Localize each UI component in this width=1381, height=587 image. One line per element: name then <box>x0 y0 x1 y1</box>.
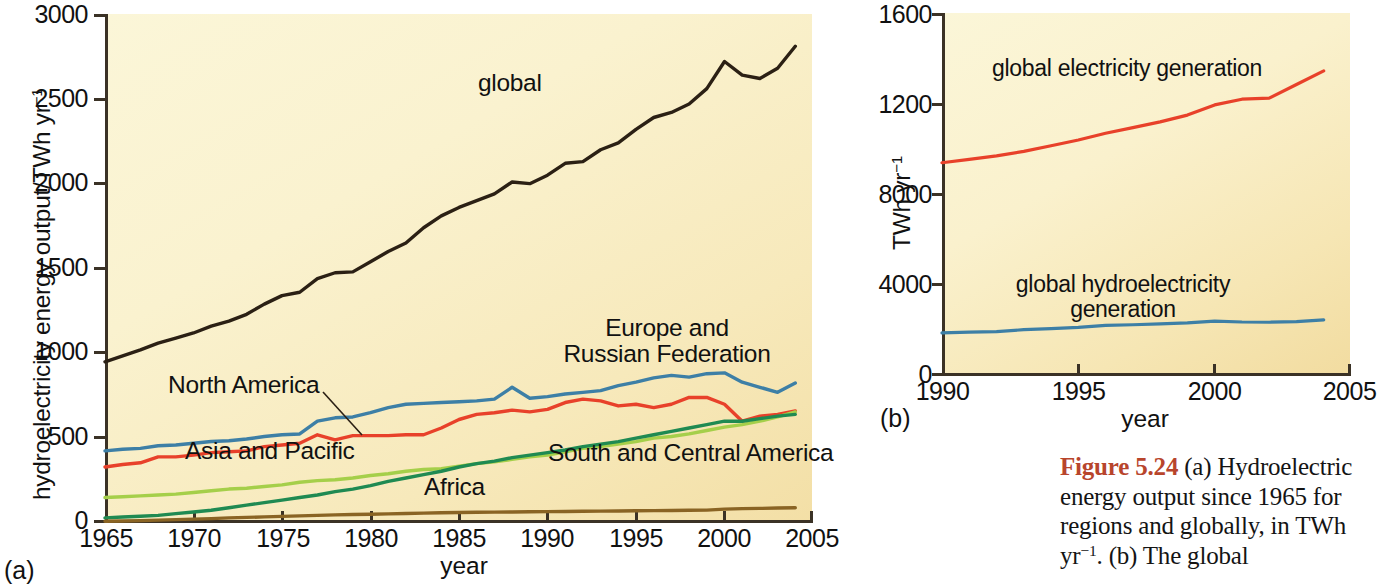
figure-caption-number-prefix: Figure <box>1060 453 1129 480</box>
panel-a-x-axis-label: year <box>404 552 524 580</box>
panel-a-label-europe-russia-line1: Europe and <box>605 314 729 341</box>
panel-b-ytick-label-8000: 8000 <box>828 180 932 209</box>
figure-caption-tail: . (b) The global <box>1097 542 1249 569</box>
panel-a-ytick-label-3000: 3000 <box>0 0 88 29</box>
panel-b-xtick-label-2000: 2000 <box>1162 377 1267 406</box>
panel-a-label-africa: Africa <box>424 474 485 500</box>
panel-b-tag: (b) <box>880 404 911 433</box>
panel-a-tag: (a) <box>4 556 35 585</box>
panel-b-xtick-label-1995: 1995 <box>1026 377 1131 406</box>
panel-b-label-electricity: global electricity generation <box>992 55 1262 82</box>
panel-a-label-global: global <box>478 70 542 96</box>
panel-b-y-axis-label-sup: −1 <box>888 156 905 173</box>
panel-b-label-hydro-line2: generation <box>1070 296 1176 322</box>
panel-a-y-axis-label: hydroelectricity energy output/TWh yr−1 <box>28 89 56 500</box>
panel-b-xtick-label-2005: 2005 <box>1297 377 1381 406</box>
panel-b-y-axis-label-text: TWh yr <box>888 173 915 250</box>
panel-a-label-south-central-america: South and Central America <box>548 440 833 466</box>
panel-b-label-hydro: global hydroelectricitygeneration <box>998 272 1248 322</box>
panel-b-x-axis-label: year <box>1085 405 1205 433</box>
panel-b-xtick-label-1990: 1990 <box>890 377 995 406</box>
panel-a-xtick-label-2005: 2005 <box>756 524 868 553</box>
panel-b-ytick-label-12000: 1200 <box>828 90 932 119</box>
panel-b-label-hydro-line1: global hydroelectricity <box>1016 271 1230 297</box>
figure-caption: Figure 5.24 (a) Hydroelectric energy out… <box>1060 452 1360 570</box>
figure-caption-superscript: −1 <box>1080 541 1096 558</box>
panel-b-ytick-label-4000: 4000 <box>828 270 932 299</box>
panel-a-label-asia-pacific: Asia and Pacific <box>185 438 355 464</box>
series-global-hydroelectricity-generation <box>942 320 1324 333</box>
panel-a-y-axis-label-sup: −1 <box>28 89 45 106</box>
panel-a: 0 500 1000 1500 2000 2500 3000 1965 1970… <box>0 0 880 587</box>
panel-a-label-europe-russia: Europe andRussian Federation <box>537 315 797 367</box>
panel-a-y-axis-label-text: hydroelectricity energy output/TWh yr <box>28 105 55 500</box>
panel-b-ytick-label-16000: 1600 <box>828 0 932 29</box>
panel-a-label-europe-russia-line2: Russian Federation <box>563 340 770 367</box>
panel-b-y-axis-label: TWh yr−1 <box>888 156 916 250</box>
figure-caption-number: Figure 5.24 <box>1060 453 1178 480</box>
series-global-electricity-generation <box>942 71 1324 163</box>
figure-caption-number-value: 5.24 <box>1135 453 1178 480</box>
panel-a-label-north-america: North America <box>168 372 319 398</box>
